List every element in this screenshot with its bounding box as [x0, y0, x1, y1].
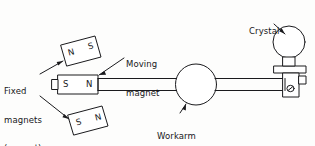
- label-moving-magnet-line2: magnet: [126, 89, 159, 99]
- label-crystal-text: Crystal: [249, 27, 280, 37]
- workarm-right-segment: [215, 79, 285, 91]
- moving-magnet-pole-north: N: [86, 79, 93, 89]
- label-moving-magnet: Moving magnet: [126, 41, 159, 117]
- label-workarm-bearing-line1: Workarm: [157, 132, 196, 142]
- label-fixed-magnets-line2: magnets: [4, 116, 42, 126]
- label-moving-magnet-line1: Moving: [126, 60, 159, 70]
- workarm-bearing-circle: [176, 64, 217, 105]
- mount-block-assembly: [274, 66, 306, 97]
- diagram-canvas: N S S N S N Crystal Moving magnet Fixed …: [0, 0, 315, 146]
- label-workarm-bearing: Workarm bearing: [157, 113, 196, 146]
- leader-workarm-bearing: [180, 104, 186, 113]
- leader-fixed-magnets-lower: [40, 96, 69, 119]
- label-fixed-magnets-line1: Fixed: [4, 87, 42, 97]
- label-fixed-magnets-line3: (pre-set): [4, 144, 42, 146]
- leader-fixed-magnets-upper: [40, 61, 63, 74]
- leader-moving-magnet: [99, 58, 124, 75]
- label-fixed-magnets: Fixed magnets (pre-set): [4, 68, 42, 146]
- label-crystal: Crystal: [249, 8, 280, 56]
- moving-magnet-pole-south: S: [63, 79, 69, 89]
